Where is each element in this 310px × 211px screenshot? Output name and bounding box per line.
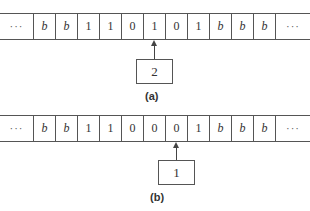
tape-a-cell: b	[209, 14, 231, 39]
tape-b-cell: b	[231, 116, 253, 141]
tape-a-left-ellipsis: ···	[0, 14, 33, 39]
tape-b-cell: b	[33, 116, 55, 141]
tape-a-cell: 0	[121, 14, 143, 39]
tape-a-cell: 1	[187, 14, 209, 39]
tape-b-cell: b	[55, 116, 77, 141]
state-box-b: 1	[158, 160, 195, 185]
tape-a-right-ellipsis: ···	[275, 14, 310, 39]
tape-b-left-ellipsis: ···	[0, 116, 33, 141]
tape-b-cell: 1	[99, 116, 121, 141]
tape-b: ··· b b 1 1 0 0 0 1 b b b ···	[0, 115, 310, 142]
tape-a-cell-head: 1	[143, 14, 165, 39]
tape-b-cell: 0	[121, 116, 143, 141]
tape-b-cell: 1	[77, 116, 99, 141]
head-arrow-b-line	[176, 147, 177, 160]
tape-a-cell: 0	[165, 14, 187, 39]
tape-b-cell: b	[209, 116, 231, 141]
tape-a-cell: 1	[77, 14, 99, 39]
tape-b-cell: 0	[143, 116, 165, 141]
head-arrow-a-line	[154, 45, 155, 59]
caption-b: (b)	[150, 191, 164, 203]
tape-b-cell-head: 0	[165, 116, 187, 141]
tape-a-cell: b	[253, 14, 275, 39]
tape-b-cell: b	[253, 116, 275, 141]
tape-a-cell: b	[33, 14, 55, 39]
tape-b-cell: 1	[187, 116, 209, 141]
tape-a-cell: 1	[99, 14, 121, 39]
state-box-a: 2	[136, 59, 173, 84]
tape-a-cell: b	[231, 14, 253, 39]
tape-b-right-ellipsis: ···	[275, 116, 310, 141]
tape-a: ··· b b 1 1 0 1 0 1 b b b ···	[0, 13, 310, 40]
caption-a: (a)	[145, 90, 158, 102]
tape-a-cell: b	[55, 14, 77, 39]
